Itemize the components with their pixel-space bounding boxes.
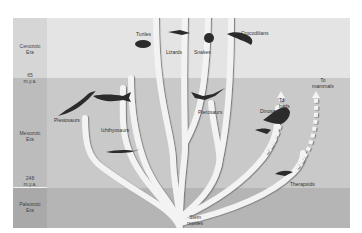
snake-icon [204,33,214,43]
turtle-icon [135,40,151,48]
plesiosaur-icon [58,91,96,116]
label-dinosaurs: Dinosaurs [260,109,283,115]
label-therapsids: Therapsids [290,182,315,188]
label-turtles: Turtles [136,32,151,38]
branch-to-mammals [296,98,316,168]
label-lizards: Lizards [166,50,182,56]
branch-therapsids [180,153,303,223]
dinosaur-icon-small [255,129,271,135]
label-line: birds [279,104,290,110]
ichthyosaur-icon-2 [106,149,140,153]
label-snakes: Snakes [194,50,211,56]
branch-lizards [180,18,185,218]
pterosaur-icon [191,88,225,100]
label-crocodilians: Crocodilians [241,31,269,37]
label-stem-reptiles: Stem reptiles [187,215,203,226]
label-line: mammals [312,84,334,90]
label-line: reptiles [187,221,203,227]
branch-plesiosaurs [85,118,180,228]
label-pterosaurs: Pterosaurs [198,110,222,116]
label-to-mammals: To mammals [312,78,334,89]
label-to-birds: To birds [279,98,290,109]
arrow-to-mammals-icon [312,91,320,98]
label-ichthyosaurs: Ichthyosaurs [101,128,129,134]
label-plesiosaurs: Plesiosaurs [54,118,80,124]
phylogeny-diagram: Cenozoic Era 65 m.y.a. Mesozoic Era 248 … [13,18,350,228]
